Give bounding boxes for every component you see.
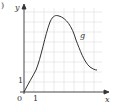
origin-label: 0 [17, 95, 22, 103]
axes [20, 4, 109, 94]
x-axis-label: x [105, 96, 110, 104]
x-axis-arrow-icon [104, 90, 109, 94]
y-tick-label: 1 [18, 77, 23, 85]
y-axis-label: y [15, 4, 20, 12]
y-axis-arrow-icon [22, 4, 26, 9]
curve-label: g [80, 32, 85, 40]
grid [24, 8, 102, 92]
curve-g [24, 16, 97, 92]
x-tick-label: 1 [33, 95, 38, 103]
